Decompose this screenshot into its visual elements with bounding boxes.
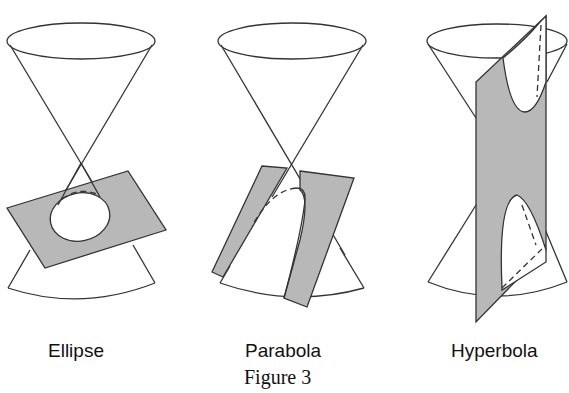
parabola-diagram — [212, 23, 366, 307]
figure-caption: Figure 3 — [244, 366, 311, 389]
ellipse-cone-lower-right — [133, 245, 155, 283]
ellipse-cone-lower-left — [8, 250, 30, 288]
ellipse-diagram — [7, 23, 166, 299]
parabola-cone-lower-right — [340, 248, 364, 288]
hyperbola-label: Hyperbola — [451, 340, 538, 362]
hyperbola-cone-lower-left — [428, 205, 476, 282]
hyperbola-cone-upper-left — [428, 44, 476, 118]
parabola-plane-right-strip — [284, 171, 354, 307]
ellipse-cone-top-rim — [7, 23, 155, 59]
ellipse-label: Ellipse — [48, 340, 104, 362]
parabola-plane-left-strip — [212, 166, 287, 277]
hyperbola-diagram — [427, 16, 567, 322]
parabola-label: Parabola — [245, 340, 321, 362]
ellipse-cone-bottom-rim — [8, 283, 155, 299]
parabola-cone-top-rim — [218, 23, 366, 59]
conic-sections-figure — [0, 0, 569, 393]
